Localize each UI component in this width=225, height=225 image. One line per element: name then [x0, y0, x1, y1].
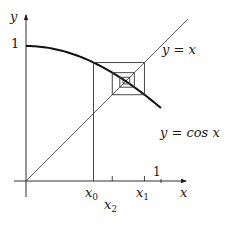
cobweb-path: [94, 63, 145, 181]
x-tick-one-label: 1: [153, 165, 161, 179]
identity-line-label: y = x: [161, 42, 197, 57]
y-axis-label: y: [9, 9, 18, 24]
cobweb-diagram: y 1 x 1 x0 x1 x2 y = x y = cos x: [0, 0, 225, 225]
y-tick-one-label: 1: [11, 36, 19, 51]
x-axis-label: x: [180, 185, 188, 200]
cosine-curve-label: y = cos x: [159, 125, 220, 140]
x2-label: x2: [104, 197, 117, 214]
x0-label: x0: [85, 185, 98, 202]
x1-label: x1: [136, 185, 149, 202]
